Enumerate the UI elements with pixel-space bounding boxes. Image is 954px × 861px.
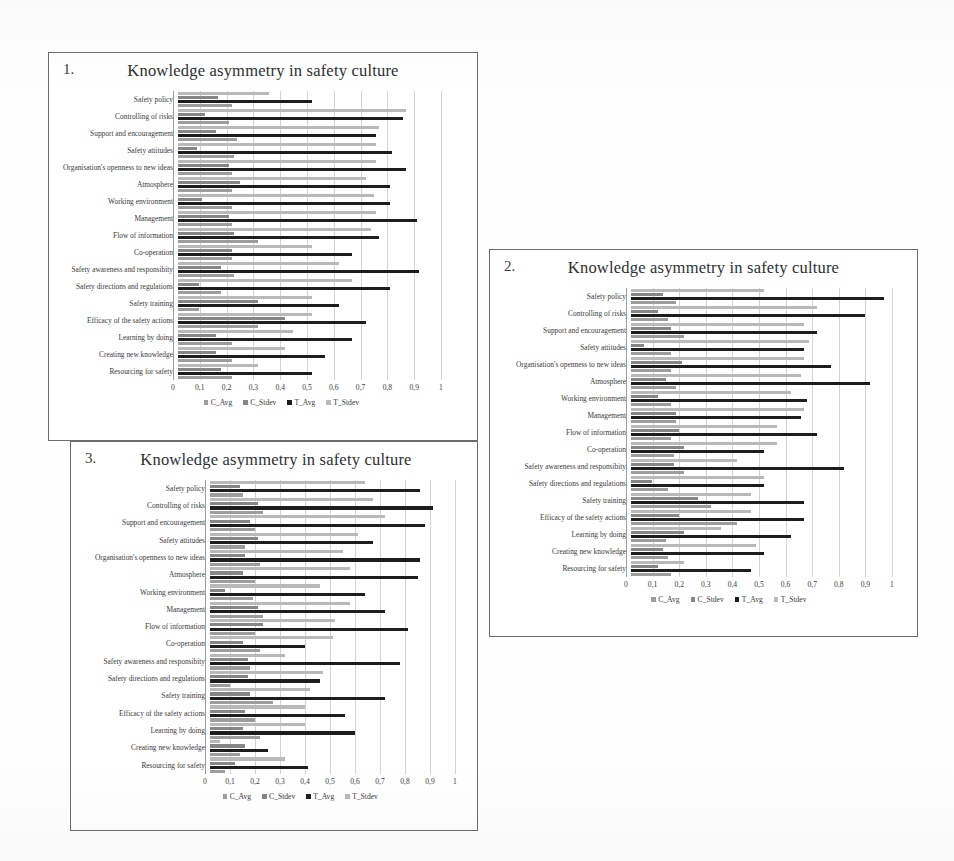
legend-item[interactable]: C_Avg — [651, 595, 679, 604]
legend-item[interactable]: T_Stdev — [774, 595, 807, 604]
bar-group — [631, 560, 897, 577]
bar-c_avg — [631, 505, 711, 508]
bar-t_stdev — [178, 262, 339, 265]
bar-t_avg — [178, 117, 403, 120]
chart-category-row: Learning by doing — [55, 329, 443, 346]
axis-tick-label: 1 — [453, 777, 457, 786]
bar-t_stdev — [178, 126, 379, 129]
chart-category-row: Flow of information — [73, 618, 455, 635]
bar-t_avg — [210, 610, 385, 613]
bar-t_stdev — [178, 330, 293, 333]
axis-tick-label: 0,5 — [302, 383, 312, 392]
legend-item[interactable]: C_Stdev — [262, 792, 295, 801]
bar-c_stdev — [631, 412, 676, 415]
bar-group — [178, 210, 446, 227]
category-label: Learning by doing — [55, 329, 178, 346]
bar-t_stdev — [210, 602, 350, 605]
category-label: Efficacy of the safety actions — [73, 705, 210, 722]
bar-t_avg — [210, 489, 420, 492]
bar-c_avg — [210, 736, 260, 739]
category-label: Flow of information — [55, 227, 178, 244]
bar-group — [631, 390, 897, 407]
bar-t_avg — [210, 524, 425, 527]
bar-t_stdev — [178, 228, 371, 231]
bar-group — [631, 356, 897, 373]
legend-item[interactable]: C_Avg — [223, 792, 251, 801]
bar-t_stdev — [178, 279, 352, 282]
axis-tick-label: 0,5 — [325, 777, 335, 786]
category-label: Controlling of risks — [55, 108, 178, 125]
bar-group — [631, 509, 897, 526]
category-label: Working environment — [73, 584, 210, 601]
bar-c_stdev — [631, 531, 684, 534]
bar-c_avg — [631, 488, 668, 491]
category-label: Creating new knowledge — [492, 543, 631, 560]
bar-t_stdev — [178, 109, 406, 112]
bar-c_avg — [178, 138, 237, 141]
category-label: Safety awareness and responsibity — [55, 261, 178, 278]
bar-t_stdev — [631, 476, 764, 479]
legend-item[interactable]: C_Stdev — [243, 398, 276, 407]
bar-t_stdev — [178, 296, 312, 299]
category-label: Controlling of risks — [73, 497, 210, 514]
bar-group — [178, 329, 446, 346]
legend-item[interactable]: T_Stdev — [345, 792, 378, 801]
legend-swatch-icon — [735, 597, 740, 602]
bar-t_avg — [178, 134, 376, 137]
chart-category-row: Support and encouragement — [55, 125, 443, 142]
bar-t_avg — [210, 679, 320, 682]
bar-group — [178, 227, 446, 244]
chart-category-row: Safety policy — [73, 480, 455, 497]
bar-t_stdev — [631, 340, 809, 343]
bar-c_avg — [178, 223, 232, 226]
bar-c_stdev — [210, 537, 258, 540]
category-label: Safety directions and regulations — [73, 670, 210, 687]
bar-t_stdev — [631, 442, 777, 445]
bar-t_avg — [178, 372, 312, 375]
bar-group — [210, 497, 460, 514]
bar-group — [210, 705, 460, 722]
category-label: Co-operation — [55, 244, 178, 261]
bar-group — [631, 339, 897, 356]
chart-category-row: Safety attitudes — [492, 339, 892, 356]
chart-category-row: Safety training — [492, 492, 892, 509]
legend-item[interactable]: T_Stdev — [326, 398, 359, 407]
bar-group — [631, 322, 897, 339]
bar-t_avg — [178, 253, 352, 256]
bar-t_stdev — [210, 654, 285, 657]
bar-t_avg — [178, 338, 352, 341]
bar-t_stdev — [178, 194, 374, 197]
bar-t_avg — [631, 382, 870, 385]
axis-tick-label: 0,7 — [356, 383, 366, 392]
legend-item[interactable]: T_Avg — [287, 398, 315, 407]
legend-item[interactable]: T_Avg — [306, 792, 334, 801]
bar-c_avg — [631, 522, 737, 525]
bar-c_stdev — [631, 327, 671, 330]
bar-t_stdev — [178, 160, 376, 163]
bar-c_stdev — [210, 589, 225, 592]
axis-tick-label: 0,1 — [648, 580, 658, 589]
bar-c_avg — [178, 104, 232, 107]
legend-item[interactable]: T_Avg — [735, 595, 763, 604]
bar-c_stdev — [178, 198, 202, 201]
chart-1-title: Knowledge asymmetry in safety culture — [49, 61, 477, 81]
bar-c_avg — [210, 597, 253, 600]
axis-tick-label: 0,2 — [222, 383, 232, 392]
axis-tick-label: 0,9 — [861, 580, 871, 589]
bar-t_avg — [631, 569, 751, 572]
legend-item[interactable]: C_Stdev — [691, 595, 724, 604]
bar-t_avg — [631, 501, 804, 504]
category-label: Creating new knowledge — [73, 739, 210, 756]
bar-c_stdev — [631, 293, 663, 296]
legend-item[interactable]: C_Avg — [204, 398, 232, 407]
category-label: Safety awareness and responsibity — [73, 653, 210, 670]
bar-c_stdev — [631, 446, 684, 449]
bar-group — [178, 159, 446, 176]
bar-t_stdev — [631, 425, 777, 428]
legend-label: T_Avg — [313, 792, 334, 801]
category-label: Management — [492, 407, 631, 424]
bar-t_stdev — [210, 688, 310, 691]
bar-c_stdev — [210, 623, 263, 626]
chart-category-row: Atmosphere — [492, 373, 892, 390]
axis-tick-label: 0,8 — [834, 580, 844, 589]
